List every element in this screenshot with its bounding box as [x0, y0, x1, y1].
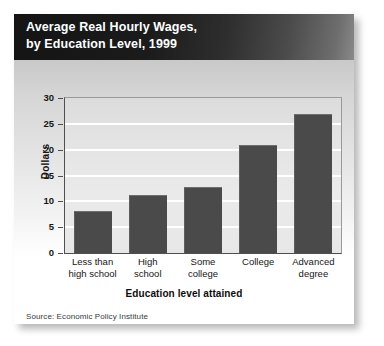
y-tick-mark-0 [58, 253, 63, 254]
y-tick-mark-10 [58, 201, 63, 202]
chart-title: Average Real Hourly Wages, by Education … [26, 19, 197, 53]
y-tick-label-15: 15 [28, 170, 54, 181]
y-axis-title: Dollars [40, 127, 51, 197]
x-tick-label-0: Less than high school [65, 256, 120, 280]
y-tick-label-20: 20 [28, 144, 54, 155]
x-axis-title: Education level attained [14, 288, 354, 299]
bar-2 [184, 187, 222, 253]
bar-3 [239, 145, 277, 253]
y-tick-label-0: 0 [28, 247, 54, 258]
bar-series [65, 98, 341, 253]
chart-body: Dollars 051015202530 Less than high scho… [14, 60, 354, 324]
screenshot-stage: Average Real Hourly Wages, by Education … [0, 0, 384, 346]
chart-card: Average Real Hourly Wages, by Education … [14, 14, 354, 324]
x-tick-label-2: Some college [175, 256, 230, 280]
y-tick-label-25: 25 [28, 118, 54, 129]
source-note: Source: Economic Policy Institute [26, 312, 148, 321]
x-tick-label-4: Advanced degree [286, 256, 341, 280]
bar-0 [74, 211, 112, 253]
y-tick-label-10: 10 [28, 195, 54, 206]
y-tick-mark-15 [58, 176, 63, 177]
y-tick-mark-20 [58, 150, 63, 151]
y-tick-mark-30 [58, 98, 63, 99]
y-tick-label-5: 5 [28, 221, 54, 232]
bar-4 [294, 114, 332, 254]
x-tick-label-3: College [231, 256, 286, 268]
chart-title-band: Average Real Hourly Wages, by Education … [14, 14, 354, 60]
bar-1 [129, 195, 167, 253]
y-tick-label-30: 30 [28, 92, 54, 103]
x-tick-label-1: High school [120, 256, 175, 280]
y-tick-mark-25 [58, 124, 63, 125]
y-tick-mark-5 [58, 227, 63, 228]
